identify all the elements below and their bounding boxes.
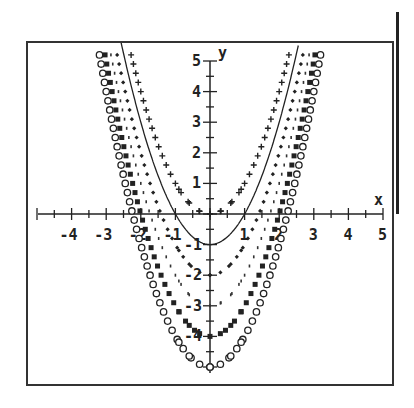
x-tick-label: -3 (94, 226, 112, 244)
y-tick-label: 2 (192, 144, 201, 162)
y-tick-label: 1 (192, 174, 201, 192)
y-tick-label: -2 (184, 266, 202, 284)
chart-canvas: -4-3-2-11234554321-1-2-3-4 x y (0, 0, 414, 408)
x-tick-label: 5 (378, 226, 387, 244)
x-axis-label: x (374, 191, 383, 209)
y-tick-label: 4 (192, 83, 201, 101)
x-tick-label: 3 (309, 226, 318, 244)
x-tick-label: 4 (343, 226, 352, 244)
y-tick-label: -3 (184, 297, 202, 315)
x-tick-label: 1 (240, 226, 249, 244)
y-tick-label: 5 (192, 52, 201, 70)
y-tick-label: 3 (192, 113, 201, 131)
axes: -4-3-2-11234554321-1-2-3-4 (37, 52, 387, 373)
x-tick-label: -4 (60, 226, 78, 244)
y-axis-label: y (218, 44, 227, 62)
y-tick-label: -1 (184, 236, 202, 254)
